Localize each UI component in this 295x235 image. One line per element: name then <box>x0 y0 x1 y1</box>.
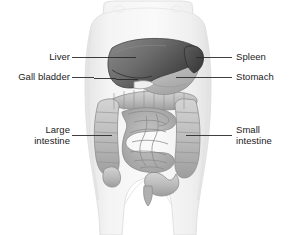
label-large-intestine: Large intestine <box>0 124 70 146</box>
label-stomach: Stomach <box>236 71 294 82</box>
label-liver: Liver <box>0 51 70 62</box>
anatomy-figure: Liver Gall bladder Large intestine Splee… <box>0 0 295 235</box>
label-small-intestine: Small intestine <box>236 124 294 146</box>
anatomy-illustration <box>0 0 295 235</box>
label-spleen: Spleen <box>236 51 294 62</box>
label-gall-bladder: Gall bladder <box>0 71 70 82</box>
